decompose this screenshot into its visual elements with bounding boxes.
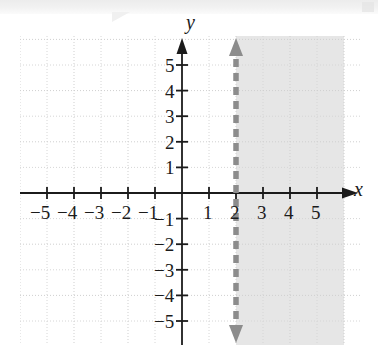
x-tick-label-neg2: −2 (111, 203, 131, 222)
x-tick-label-2: 2 (230, 203, 240, 222)
y-tick-label-5: 5 (165, 56, 175, 75)
y-tick-label-3: 3 (165, 107, 175, 126)
y-tick-label-4: 4 (165, 82, 175, 101)
x-tick-label-neg4: −4 (57, 203, 77, 222)
y-tick-label-neg3: −3 (154, 261, 174, 280)
y-tick-label-2: 2 (165, 133, 175, 152)
y-tick-label-neg5: −5 (154, 312, 174, 331)
x-tick-label-5: 5 (311, 203, 321, 222)
x-tick-label-3: 3 (257, 203, 267, 222)
y-tick-label-neg1: −1 (154, 210, 174, 229)
y-axis-label: y (186, 12, 195, 32)
coordinate-plane: −5−4−3−2−11234554321−1−2−3−4−5xy (20, 36, 360, 345)
y-tick-label-neg4: −4 (154, 286, 174, 305)
scan-artifact-notch (112, 12, 130, 22)
x-tick-label-4: 4 (284, 203, 294, 222)
x-tick-label-1: 1 (203, 203, 213, 222)
x-tick-label-neg3: −3 (84, 203, 104, 222)
y-tick-label-neg2: −2 (154, 235, 174, 254)
x-axis-label: x (354, 179, 363, 199)
y-tick-label-1: 1 (165, 158, 175, 177)
scan-artifact-corner (362, 2, 374, 12)
coordinate-plane-svg (20, 36, 360, 345)
y-axis (177, 38, 188, 345)
graph-figure: −5−4−3−2−11234554321−1−2−3−4−5xy (0, 0, 378, 360)
x-tick-label-neg5: −5 (30, 203, 50, 222)
